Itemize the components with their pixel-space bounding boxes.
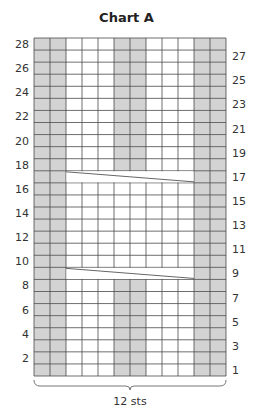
chart-cell-r25-c7 bbox=[130, 74, 146, 86]
chart-cell-r7-c6 bbox=[114, 292, 130, 304]
chart-cell-r14-c8 bbox=[146, 207, 162, 219]
chart-cell-r24-c4 bbox=[82, 86, 98, 98]
chart-cell-r11-c5 bbox=[98, 243, 114, 255]
chart-cell-r24-c2 bbox=[50, 86, 66, 98]
chart-cell-r22-c4 bbox=[82, 110, 98, 122]
chart-cell-r24-c12 bbox=[210, 86, 226, 98]
chart-cell-r18-c8 bbox=[146, 159, 162, 171]
chart-cell-r16-c3 bbox=[66, 183, 82, 195]
chart-cell-r16-c7 bbox=[130, 183, 146, 195]
row-label-left: 8 bbox=[22, 279, 29, 292]
chart-cell-r3-c4 bbox=[82, 340, 98, 352]
chart-cell-r9-c1 bbox=[34, 267, 50, 279]
chart-cell-r12-c3 bbox=[66, 231, 82, 243]
chart-cell-r25-c3 bbox=[66, 74, 82, 86]
chart-cell-r4-c8 bbox=[146, 328, 162, 340]
chart-cell-r4-c12 bbox=[210, 328, 226, 340]
chart-cell-r6-c2 bbox=[50, 304, 66, 316]
chart-cell-r3-c3 bbox=[66, 340, 82, 352]
chart-cell-r25-c4 bbox=[82, 74, 98, 86]
chart-cell-r22-c9 bbox=[162, 110, 178, 122]
chart-cell-r12-c9 bbox=[162, 231, 178, 243]
chart-cell-r8-c11 bbox=[194, 279, 210, 291]
chart-cell-r21-c4 bbox=[82, 123, 98, 135]
chart-cell-r24-c8 bbox=[146, 86, 162, 98]
chart-cell-r23-c7 bbox=[130, 98, 146, 110]
row-label-right: 15 bbox=[232, 195, 246, 208]
chart-cell-r15-c1 bbox=[34, 195, 50, 207]
chart-cell-r1-c3 bbox=[66, 364, 82, 376]
chart-cell-r1-c11 bbox=[194, 364, 210, 376]
chart-cell-r10-c1 bbox=[34, 255, 50, 267]
chart-cell-r22-c6 bbox=[114, 110, 130, 122]
chart-cell-r4-c5 bbox=[98, 328, 114, 340]
chart-cell-r4-c2 bbox=[50, 328, 66, 340]
chart-cell-r23-c9 bbox=[162, 98, 178, 110]
width-label: 12 sts bbox=[113, 395, 147, 408]
chart-cell-r4-c3 bbox=[66, 328, 82, 340]
chart-cell-r8-c2 bbox=[50, 279, 66, 291]
row-label-left: 22 bbox=[15, 110, 29, 123]
chart-cell-r23-c4 bbox=[82, 98, 98, 110]
chart-cell-r10-c9 bbox=[162, 255, 178, 267]
chart-cell-r25-c9 bbox=[162, 74, 178, 86]
chart-cell-r19-c3 bbox=[66, 147, 82, 159]
chart-cell-r17-c2 bbox=[50, 171, 66, 183]
chart-cell-r28-c7 bbox=[130, 38, 146, 50]
chart-cell-r10-c2 bbox=[50, 255, 66, 267]
chart-cell-r25-c6 bbox=[114, 74, 130, 86]
chart-cell-r16-c1 bbox=[34, 183, 50, 195]
chart-cell-r16-c6 bbox=[114, 183, 130, 195]
row-label-left: 12 bbox=[15, 231, 29, 244]
chart-cell-r10-c11 bbox=[194, 255, 210, 267]
chart-cell-r2-c10 bbox=[178, 352, 194, 364]
chart-cell-r28-c3 bbox=[66, 38, 82, 50]
chart-cell-r10-c7 bbox=[130, 255, 146, 267]
chart-cell-r16-c5 bbox=[98, 183, 114, 195]
chart-cell-r13-c7 bbox=[130, 219, 146, 231]
row-label-right: 21 bbox=[232, 123, 246, 136]
chart-cell-r18-c7 bbox=[130, 159, 146, 171]
chart-cell-r2-c3 bbox=[66, 352, 82, 364]
chart-cell-r12-c6 bbox=[114, 231, 130, 243]
chart-cell-r17-c11 bbox=[194, 171, 210, 183]
chart-cell-r12-c12 bbox=[210, 231, 226, 243]
chart-cell-r25-c12 bbox=[210, 74, 226, 86]
chart-cell-r6-c4 bbox=[82, 304, 98, 316]
chart-cell-r7-c10 bbox=[178, 292, 194, 304]
chart-cell-r28-c2 bbox=[50, 38, 66, 50]
chart-cell-r13-c12 bbox=[210, 219, 226, 231]
chart-cell-r6-c6 bbox=[114, 304, 130, 316]
chart-cell-r19-c9 bbox=[162, 147, 178, 159]
chart-cell-r1-c4 bbox=[82, 364, 98, 376]
chart-cell-r1-c2 bbox=[50, 364, 66, 376]
chart-cell-r20-c1 bbox=[34, 135, 50, 147]
chart-cell-r20-c10 bbox=[178, 135, 194, 147]
chart-cell-r28-c6 bbox=[114, 38, 130, 50]
chart-cell-r8-c10 bbox=[178, 279, 194, 291]
chart-cell-r21-c8 bbox=[146, 123, 162, 135]
chart-cell-r7-c4 bbox=[82, 292, 98, 304]
chart-cell-r13-c4 bbox=[82, 219, 98, 231]
chart-cell-r5-c9 bbox=[162, 316, 178, 328]
row-label-right: 9 bbox=[232, 267, 239, 280]
chart-cell-r3-c8 bbox=[146, 340, 162, 352]
chart-cell-r26-c4 bbox=[82, 62, 98, 74]
chart-cell-r14-c11 bbox=[194, 207, 210, 219]
chart-cell-r1-c10 bbox=[178, 364, 194, 376]
chart-cell-r5-c6 bbox=[114, 316, 130, 328]
chart-cell-r27-c12 bbox=[210, 50, 226, 62]
chart-cell-r5-c4 bbox=[82, 316, 98, 328]
chart-cell-r15-c11 bbox=[194, 195, 210, 207]
chart-cell-r8-c9 bbox=[162, 279, 178, 291]
chart-cell-r16-c11 bbox=[194, 183, 210, 195]
chart-cell-r24-c3 bbox=[66, 86, 82, 98]
chart-cell-r11-c12 bbox=[210, 243, 226, 255]
chart-cell-r10-c12 bbox=[210, 255, 226, 267]
chart-cell-r11-c4 bbox=[82, 243, 98, 255]
chart-cell-r18-c12 bbox=[210, 159, 226, 171]
chart-cell-r7-c3 bbox=[66, 292, 82, 304]
chart-cell-r6-c3 bbox=[66, 304, 82, 316]
chart-cell-r7-c2 bbox=[50, 292, 66, 304]
chart-cell-r23-c6 bbox=[114, 98, 130, 110]
